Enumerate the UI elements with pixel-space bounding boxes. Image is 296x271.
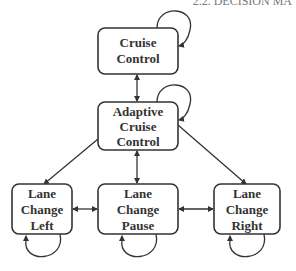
edge-lcp-self-loop (122, 234, 157, 257)
node-label: Control (116, 134, 159, 149)
edge-lcr-self-loop (230, 234, 265, 257)
node-label: Adaptive (113, 104, 164, 119)
node-cruise-control: Cruise Control (98, 28, 178, 74)
node-label: Cruise (120, 119, 157, 134)
node-lane-change-right: Lane Change Right (214, 184, 280, 234)
node-label: Change (226, 202, 269, 217)
edge-lcl-self-loop (26, 234, 61, 257)
edge-acc-lcr (178, 125, 246, 184)
node-label: Pause (122, 218, 155, 233)
node-label: Control (116, 51, 159, 66)
node-adaptive-cruise-control: Adaptive Cruise Control (98, 102, 178, 150)
node-lane-change-pause: Lane Change Pause (98, 184, 178, 234)
node-label: Lane (233, 186, 261, 201)
node-label: Change (21, 202, 64, 217)
node-lane-change-left: Lane Change Left (12, 184, 72, 234)
node-label: Lane (124, 186, 152, 201)
edge-acc-lcl (44, 139, 98, 184)
node-label: Right (231, 218, 263, 233)
state-diagram: Cruise Control Adaptive Cruise Control L… (0, 0, 296, 271)
node-label: Change (117, 202, 160, 217)
node-label: Lane (28, 186, 56, 201)
node-label: Left (30, 218, 54, 233)
node-label: Cruise (120, 35, 157, 50)
